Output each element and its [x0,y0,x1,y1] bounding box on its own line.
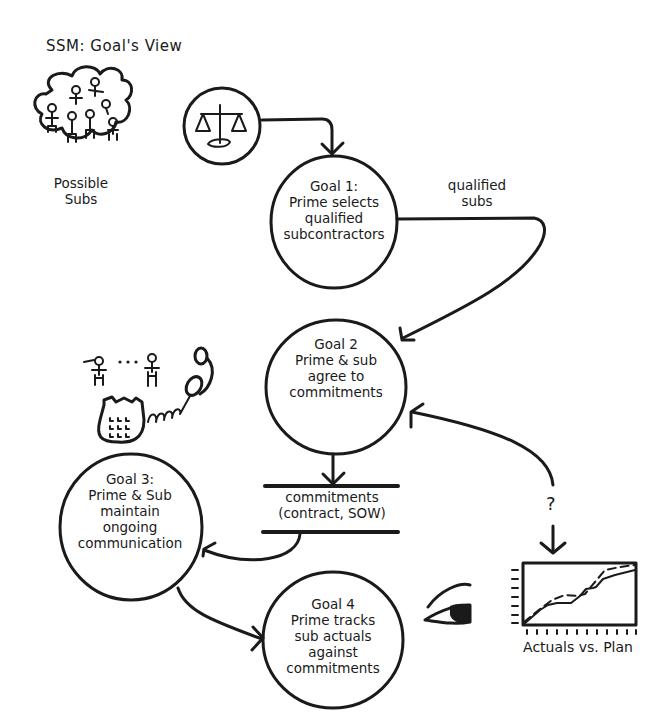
store-line: (contract, SOW) [264,506,400,522]
store-line: commitments [264,490,400,506]
label-line: Possible [46,176,116,192]
goal1-line: qualified [271,211,397,227]
goal2-title: Goal 2 [270,337,402,353]
arrow-commitments-to-goal3 [204,534,300,560]
goal1-text[interactable]: Goal 1: Prime selects qualified subcontr… [271,179,397,243]
arrow-scales-to-goal1 [262,119,332,152]
page-title: SSM: Goal's View [46,37,182,55]
people-ellipsis-icon [84,354,159,386]
arrowhead-icon [411,404,423,427]
people-cloud-icon [35,67,132,142]
arrow-question-to-goal2 [412,412,553,485]
goal2-line: Prime & sub [270,353,402,369]
question-mark: ? [546,493,556,514]
goal3-line: Prime & Sub [62,488,198,504]
goal2-line: commitments [270,385,402,401]
goal1-title: Goal 1: [271,179,397,195]
goal4-line: Prime tracks [266,613,400,629]
goal4-line: commitments [266,661,400,677]
eye-icon [425,584,470,623]
edge-label-line: qualified [432,178,522,194]
goal4-text[interactable]: Goal 4 Prime tracks sub actuals against … [266,597,400,677]
goal3-line: ongoing [62,520,198,536]
arrow-goal1-to-goal2 [397,218,545,338]
goal2-line: agree to [270,369,402,385]
telephone-icon [99,348,213,442]
goal1-line: subcontractors [271,227,397,243]
goal3-text[interactable]: Goal 3: Prime & Sub maintain ongoing com… [62,472,198,552]
edge-label-line: subs [432,194,522,210]
goal3-title: Goal 3: [62,472,198,488]
goal2-text[interactable]: Goal 2 Prime & sub agree to commitments [270,337,402,401]
scales-of-justice-icon [184,88,260,164]
label-line: Subs [46,192,116,208]
goal1-line: Prime selects [271,195,397,211]
goal3-line: communication [62,536,198,552]
qualified-subs-edge-label: qualified subs [432,178,522,210]
commitments-store-text[interactable]: commitments (contract, SOW) [264,490,400,522]
possible-subs-label: Possible Subs [46,176,116,208]
goal4-line: against [266,645,400,661]
goal4-line: sub actuals [266,629,400,645]
arrow-goal3-to-goal4 [178,588,262,639]
line-chart-icon [512,563,636,634]
goal3-line: maintain [62,504,198,520]
goal4-title: Goal 4 [266,597,400,613]
chart-label: Actuals vs. Plan [508,639,648,656]
